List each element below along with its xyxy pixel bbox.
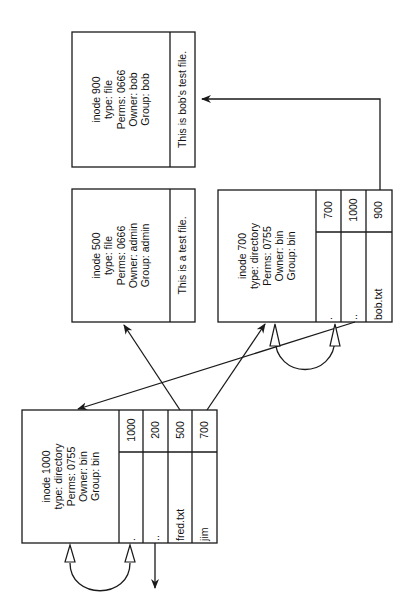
inode-owner: Owner: bob bbox=[127, 32, 139, 167]
dir-entry-inode: 1000 bbox=[125, 410, 137, 450]
self-loop-inode-1000 bbox=[70, 563, 130, 591]
dir-entry-inode: 200 bbox=[149, 410, 161, 450]
dir-entry-inode: 700 bbox=[198, 410, 210, 450]
dir-entry-name: .. bbox=[149, 455, 161, 541]
inode-number: inode 700 bbox=[236, 190, 248, 322]
inode-owner: Owner: admin bbox=[127, 189, 139, 322]
dir-entry-name: . bbox=[125, 455, 137, 541]
dir-entry-name: . bbox=[322, 235, 334, 320]
open-arrowhead-icon bbox=[65, 545, 75, 562]
dir-entry-inode: 1000 bbox=[347, 190, 359, 230]
inode-perms: Perms: 0755 bbox=[65, 410, 77, 543]
inode-number: inode 500 bbox=[90, 189, 102, 322]
dir-entry-name: fred.txt bbox=[174, 455, 186, 541]
inode-500-info: inode 500 type: file Perms: 0666 Owner: … bbox=[90, 189, 151, 322]
inode-900-content: This is bob's test file. bbox=[176, 32, 188, 167]
open-arrowhead-icon bbox=[270, 324, 280, 346]
inode-type: type: file bbox=[102, 32, 114, 167]
inode-perms: Perms: 0666 bbox=[115, 189, 127, 322]
inode-group: Group: bob bbox=[139, 32, 151, 167]
arrow-fred-txt-to-inode-500 bbox=[124, 325, 180, 410]
inode-700-info: inode 700 type: directory Perms: 0755 Ow… bbox=[236, 190, 297, 322]
inode-500-content: This is a test file. bbox=[176, 189, 188, 322]
dir-entry-inode: 500 bbox=[174, 410, 186, 450]
inode-perms: Perms: 0755 bbox=[261, 190, 273, 322]
dir-entry-inode: 700 bbox=[322, 190, 334, 230]
self-loop-inode-700 bbox=[275, 338, 335, 370]
arrow-jim-to-inode-700 bbox=[207, 324, 265, 410]
inode-number: inode 900 bbox=[90, 32, 102, 167]
inode-900-info: inode 900 type: file Perms: 0666 Owner: … bbox=[90, 32, 151, 167]
inode-group: Group: admin bbox=[139, 189, 151, 322]
inode-type: type: directory bbox=[248, 190, 260, 322]
dir-entry-name: bob.txt bbox=[372, 235, 384, 320]
inode-group: Group: bin bbox=[89, 410, 101, 543]
inode-1000-info: inode 1000 type: directory Perms: 0755 O… bbox=[40, 410, 101, 543]
inode-number: inode 1000 bbox=[40, 410, 52, 543]
inode-group: Group: bin bbox=[285, 190, 297, 322]
dir-entry-inode: 900 bbox=[372, 190, 384, 230]
open-arrowhead-icon bbox=[125, 545, 135, 562]
dir-entry-name: jim bbox=[198, 455, 210, 541]
inode-owner: Owner: bin bbox=[273, 190, 285, 322]
arrow-bob-txt-to-inode-900 bbox=[202, 99, 380, 190]
inode-perms: Perms: 0666 bbox=[115, 32, 127, 167]
inode-type: type: directory bbox=[52, 410, 64, 543]
inode-type: type: file bbox=[102, 189, 114, 322]
dir-entry-name: .. bbox=[347, 235, 359, 320]
inode-owner: Owner: bin bbox=[77, 410, 89, 543]
